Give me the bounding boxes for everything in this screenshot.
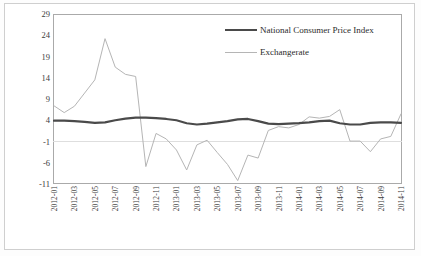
y-tick-label: 24 (26, 30, 50, 40)
legend-label-exchangerate: Exchangerate (260, 47, 309, 57)
x-axis-tick-labels: 2012-012012-032012-052012-072012-092012-… (53, 186, 402, 252)
x-tick-label: 2012-09 (131, 186, 140, 211)
y-tick-label: -6 (26, 158, 50, 168)
x-tick-label: 2013-01 (172, 186, 181, 211)
x-tick-label: 2014-11 (397, 186, 406, 211)
y-tick-label: 14 (26, 73, 50, 83)
legend-line-swatch-exchangerate (225, 52, 257, 53)
y-axis-tick-labels: 2924191494-1-6-11 (26, 14, 50, 184)
y-tick-label: 19 (26, 52, 50, 62)
x-tick-label: 2012-05 (90, 186, 99, 211)
y-tick-label: 29 (26, 9, 50, 19)
chart-figure: Annual variation 2924191494-1-6-11 2012-… (0, 0, 421, 256)
x-tick-label: 2014-07 (356, 186, 365, 211)
x-tick-label: 2013-09 (254, 186, 263, 211)
x-tick-label: 2013-11 (274, 186, 283, 211)
series-line-national-consumer-price-index (54, 118, 401, 125)
y-tick-label: -11 (26, 179, 50, 189)
x-tick-label: 2014-03 (315, 186, 324, 211)
legend-line-swatch-cpi (225, 29, 257, 31)
legend-label-cpi: National Consumer Price Index (260, 25, 374, 35)
x-tick-label: 2014-09 (376, 186, 385, 211)
x-tick-label: 2013-05 (213, 186, 222, 211)
x-tick-label: 2014-01 (294, 186, 303, 211)
x-tick-label: 2012-11 (152, 186, 161, 211)
legend-entry-cpi: National Consumer Price Index (225, 22, 400, 38)
legend-entry-exchangerate: Exchangerate (225, 44, 400, 60)
y-tick-label: -1 (26, 137, 50, 147)
x-tick-label: 2012-03 (70, 186, 79, 211)
x-tick-label: 2013-03 (192, 186, 201, 211)
x-tick-label: 2012-07 (111, 186, 120, 211)
x-tick-label: 2013-07 (233, 186, 242, 211)
x-tick-label: 2012-01 (50, 186, 59, 211)
y-tick-label: 9 (26, 94, 50, 104)
x-tick-label: 2014-05 (335, 186, 344, 211)
chart-legend: National Consumer Price Index Exchangera… (225, 22, 400, 66)
y-tick-label: 4 (26, 115, 50, 125)
